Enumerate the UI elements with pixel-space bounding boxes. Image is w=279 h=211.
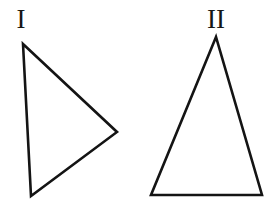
triangle-2-shape: [151, 37, 262, 195]
triangle-1-shape: [23, 44, 117, 196]
triangle-1-label: I: [17, 4, 26, 34]
triangle-2-label: II: [207, 4, 225, 34]
figure-canvas: I II: [0, 0, 279, 211]
triangles-figure: I II: [0, 0, 279, 211]
